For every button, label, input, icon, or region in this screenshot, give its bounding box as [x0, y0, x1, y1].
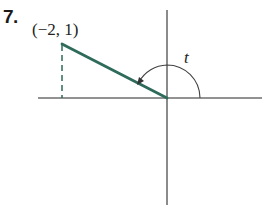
problem-number: 7. [3, 6, 18, 28]
point-label: (−2, 1) [32, 20, 78, 40]
angle-label: t [184, 48, 189, 68]
angle-arc [139, 65, 200, 98]
terminal-side [62, 44, 167, 98]
